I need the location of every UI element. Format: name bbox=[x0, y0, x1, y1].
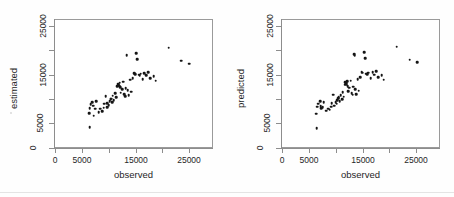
y-tick-5000-right bbox=[276, 123, 281, 124]
data-point bbox=[377, 76, 380, 79]
data-point bbox=[130, 90, 133, 93]
plot-frame-left bbox=[54, 19, 213, 148]
data-point bbox=[341, 91, 344, 94]
x-tick-20000-right bbox=[389, 149, 390, 153]
data-point bbox=[416, 61, 419, 64]
data-point bbox=[128, 94, 131, 97]
y-tick-0-left bbox=[49, 148, 54, 149]
x-tick-0-right bbox=[282, 149, 283, 153]
data-point bbox=[319, 100, 322, 103]
data-point bbox=[105, 95, 108, 98]
data-point bbox=[127, 89, 130, 92]
data-point bbox=[315, 127, 318, 130]
data-point bbox=[180, 59, 183, 62]
x-tick-5000-right bbox=[309, 149, 310, 153]
x-axis-title-right: observed bbox=[281, 169, 440, 180]
y-tick-label-5000-right: 5000 bbox=[262, 114, 272, 133]
data-point bbox=[145, 74, 148, 77]
data-point bbox=[121, 88, 124, 91]
scan-artifact-line bbox=[0, 192, 454, 193]
data-point bbox=[114, 92, 117, 95]
x-tick-25000-right bbox=[416, 149, 417, 153]
x-tick-label-25000-right: 25000 bbox=[404, 155, 428, 165]
data-point bbox=[348, 86, 351, 89]
y-tick-label-0-right: 0 bbox=[255, 146, 265, 151]
data-point bbox=[188, 62, 191, 65]
x-tick-5000-left bbox=[82, 149, 83, 153]
data-point bbox=[111, 101, 114, 104]
data-point bbox=[88, 107, 91, 110]
data-point bbox=[91, 101, 94, 104]
data-point bbox=[136, 58, 139, 61]
data-point bbox=[167, 46, 170, 49]
x-tick-label-0-right: 0 bbox=[280, 155, 285, 165]
plot-frame-right bbox=[281, 19, 440, 148]
data-point bbox=[135, 52, 138, 55]
data-point bbox=[354, 55, 357, 58]
data-point bbox=[354, 88, 357, 91]
data-point bbox=[112, 94, 115, 97]
data-point bbox=[355, 93, 358, 96]
data-point bbox=[339, 100, 342, 103]
y-tick-25000-left bbox=[49, 26, 54, 27]
data-point bbox=[118, 82, 121, 85]
y-tick-0-right bbox=[276, 148, 281, 149]
data-point bbox=[142, 78, 145, 81]
x-tick-15000-right bbox=[363, 149, 364, 153]
data-point bbox=[375, 70, 378, 73]
x-tick-20000-left bbox=[162, 149, 163, 153]
y-tick-10000-left bbox=[49, 99, 54, 100]
data-point bbox=[395, 45, 398, 48]
y-tick-label-0-left: 0 bbox=[28, 146, 38, 151]
panel-estimated-vs-observed: 0 5000 15000 25000 0 5000 15000 25000 ob… bbox=[0, 0, 227, 197]
y-tick-10000-right bbox=[276, 99, 281, 100]
data-point bbox=[149, 77, 152, 80]
data-point bbox=[359, 76, 362, 79]
data-point bbox=[342, 95, 345, 98]
data-point bbox=[341, 98, 344, 101]
data-point bbox=[357, 89, 360, 92]
plot-area-right bbox=[282, 20, 439, 147]
data-point bbox=[107, 104, 110, 107]
data-point bbox=[362, 71, 365, 74]
data-point bbox=[115, 96, 118, 99]
data-point bbox=[92, 114, 95, 117]
data-point bbox=[134, 73, 137, 76]
y-tick-label-15000-right: 15000 bbox=[265, 63, 275, 87]
y-tick-label-5000-left: 5000 bbox=[35, 114, 45, 133]
y-tick-label-25000-right: 25000 bbox=[265, 14, 275, 38]
data-point bbox=[152, 75, 155, 78]
data-point bbox=[147, 71, 150, 74]
data-point bbox=[330, 106, 333, 109]
panel-predicted-vs-observed: 0 5000 15000 25000 0 5000 15000 25000 ob… bbox=[227, 0, 454, 197]
data-point bbox=[322, 101, 325, 104]
x-tick-label-5000-left: 5000 bbox=[73, 155, 92, 165]
data-point bbox=[332, 93, 335, 96]
data-point bbox=[382, 79, 385, 82]
data-point bbox=[349, 80, 352, 83]
data-point bbox=[98, 111, 101, 114]
x-tick-label-15000-right: 15000 bbox=[351, 155, 375, 165]
data-point bbox=[124, 95, 127, 98]
data-point bbox=[363, 51, 366, 54]
data-point bbox=[154, 80, 157, 83]
y-tick-20000-right bbox=[276, 50, 281, 51]
y-axis-line-left bbox=[54, 19, 55, 148]
data-point bbox=[120, 91, 123, 94]
x-tick-0-left bbox=[55, 149, 56, 153]
data-point bbox=[316, 106, 319, 109]
data-point bbox=[380, 74, 383, 77]
data-point bbox=[370, 77, 373, 80]
y-tick-20000-left bbox=[49, 50, 54, 51]
x-tick-label-25000-left: 25000 bbox=[177, 155, 201, 165]
data-point bbox=[328, 108, 331, 111]
data-point bbox=[125, 54, 128, 57]
data-point bbox=[315, 112, 318, 115]
data-point bbox=[367, 71, 370, 74]
data-point bbox=[94, 108, 97, 111]
data-point bbox=[351, 93, 354, 96]
plot-area-left bbox=[55, 20, 212, 147]
data-point bbox=[88, 112, 91, 115]
data-point bbox=[131, 77, 134, 80]
x-tick-25000-left bbox=[189, 149, 190, 153]
